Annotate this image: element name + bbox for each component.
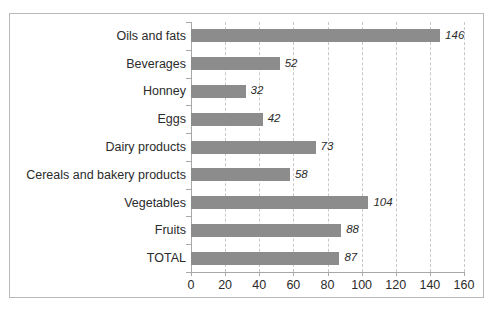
bar-value-label: 73 (321, 140, 334, 153)
category-label: Oils and fats (11, 29, 186, 43)
category-label: Vegetables (11, 196, 186, 210)
bar-value-label: 52 (285, 57, 298, 70)
bar (191, 57, 280, 70)
gridline-120 (396, 22, 397, 272)
bar (191, 85, 246, 98)
category-label: Beverages (11, 57, 186, 71)
x-tick-0 (191, 272, 192, 276)
category-label: Fruits (11, 223, 186, 237)
x-tick-40 (259, 272, 260, 276)
category-axis-labels: Oils and fatsBeveragesHonneyEggsDairy pr… (10, 14, 186, 299)
category-label: Honney (11, 84, 186, 98)
chart-frame: Oils and fatsBeveragesHonneyEggsDairy pr… (9, 13, 484, 298)
y-tick (186, 216, 191, 217)
bar (191, 141, 316, 154)
bar-value-label: 104 (373, 196, 392, 209)
y-tick (186, 105, 191, 106)
bar (191, 224, 341, 237)
x-tick-140 (430, 272, 431, 276)
bar-value-label: 88 (346, 223, 359, 236)
category-label: Eggs (11, 112, 186, 126)
bar (191, 113, 263, 126)
bar (191, 196, 368, 209)
category-label: Dairy products (11, 140, 186, 154)
x-tick-100 (362, 272, 363, 276)
bar-value-label: 58 (295, 168, 308, 181)
x-tick-60 (293, 272, 294, 276)
x-tick-120 (396, 272, 397, 276)
bar (191, 29, 440, 42)
y-tick (186, 133, 191, 134)
y-tick (186, 50, 191, 51)
bar-value-label: 146 (445, 29, 464, 42)
bar-value-label: 32 (251, 84, 264, 97)
y-tick (186, 161, 191, 162)
gridline-100 (362, 22, 363, 272)
plot-area: 14652324273581048887 (191, 22, 464, 272)
y-tick (186, 78, 191, 79)
category-label: TOTAL (11, 251, 186, 265)
y-tick (186, 189, 191, 190)
gridline-140 (430, 22, 431, 272)
bar (191, 252, 339, 265)
x-tick-20 (225, 272, 226, 276)
y-tick (186, 22, 191, 23)
bar-value-label: 42 (268, 112, 281, 125)
x-tick-80 (328, 272, 329, 276)
bar-value-label: 87 (344, 251, 357, 264)
gridline-160 (464, 22, 465, 272)
category-label: Cereals and bakery products (11, 168, 186, 182)
y-tick (186, 244, 191, 245)
y-tick (186, 272, 191, 273)
bar (191, 168, 290, 181)
x-tick-160 (464, 272, 465, 276)
x-tick-label: 160 (444, 278, 484, 293)
